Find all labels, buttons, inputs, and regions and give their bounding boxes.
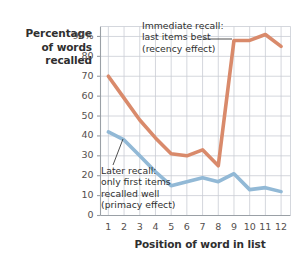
recall-serial-position-chart: Percentage of words recalled Position of…	[0, 0, 305, 256]
y-tick-label-30: 30	[66, 150, 94, 160]
y-tick-label-10: 10	[66, 190, 94, 200]
y-tick-label-20: 20	[66, 170, 94, 180]
x-tick-label-6: 6	[180, 222, 194, 232]
y-tick-label-90%: 90%	[66, 31, 94, 41]
x-tick-label-12: 12	[274, 222, 288, 232]
y-tick-label-0: 0	[66, 210, 94, 220]
x-tick-label-5: 5	[164, 222, 178, 232]
y-tick-label-80: 80	[66, 51, 94, 61]
x-axis-title: Position of word in list	[100, 238, 300, 250]
y-tick-label-40: 40	[66, 130, 94, 140]
y-tick-label-60: 60	[66, 91, 94, 101]
x-tick-label-9: 9	[227, 222, 241, 232]
x-tick-label-4: 4	[148, 222, 162, 232]
primacy-annotation: Later recall: only first items recalled …	[101, 165, 199, 211]
x-tick-label-7: 7	[196, 222, 210, 232]
recency-annotation: Immediate recall: last items best (recen…	[142, 20, 252, 54]
x-tick-label-1: 1	[101, 222, 115, 232]
y-tick-label-50: 50	[66, 111, 94, 121]
x-tick-label-10: 10	[243, 222, 257, 232]
x-tick-label-8: 8	[211, 222, 225, 232]
x-tick-label-11: 11	[258, 222, 272, 232]
x-tick-label-3: 3	[133, 222, 147, 232]
x-tick-label-2: 2	[117, 222, 131, 232]
y-tick-label-70: 70	[66, 71, 94, 81]
